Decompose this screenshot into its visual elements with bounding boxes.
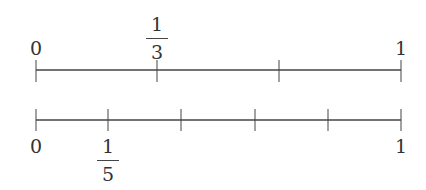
denominator: 5 [102,165,114,184]
number-line-fifths [36,109,401,131]
number-lines-diagram [0,0,426,190]
bottom-start-label: 0 [30,137,42,156]
fraction-bar [97,160,119,161]
numerator: 1 [102,137,114,156]
bottom-end-label: 1 [395,137,407,156]
denominator: 3 [151,43,163,62]
top-start-label: 0 [30,39,42,58]
top-end-label: 1 [395,39,407,58]
top-fraction-label: 1 3 [146,15,168,62]
number-line-thirds [36,60,401,82]
bottom-fraction-label: 1 5 [97,137,119,184]
fraction-bar [146,38,168,39]
numerator: 1 [151,15,163,34]
